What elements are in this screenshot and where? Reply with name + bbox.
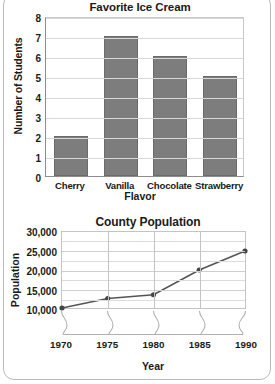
line-chart-title: County Population <box>50 215 246 229</box>
bar-chart-y-tick-label: 4 <box>35 93 41 104</box>
bar-chart-category-label: Cherry <box>55 180 85 191</box>
bar-chart-gridline <box>46 138 243 139</box>
bar-chart-y-tick-label: 5 <box>35 73 41 84</box>
line-chart-x-tick-label: 1980 <box>143 339 165 350</box>
bar-chart-y-tick-label: 2 <box>35 133 41 144</box>
line-chart-y-tick-label: 30,000 <box>26 227 57 238</box>
bar-chart-gridline <box>46 58 243 59</box>
bar-chart-gridline <box>46 38 243 39</box>
bar-chart-y-tick-label: 3 <box>35 113 41 124</box>
line-chart-x-tick-label: 1975 <box>96 339 118 350</box>
bar-cherry <box>54 136 88 176</box>
bar-strawberry <box>203 76 237 176</box>
bar-chart-figure: Favorite Ice Cream Number of Students Fl… <box>0 0 252 205</box>
bar-chart-gridline <box>46 18 243 19</box>
line-chart-x-tick-label: 1970 <box>50 339 72 350</box>
bar-chart-y-tick-label: 6 <box>35 53 41 64</box>
line-chart-figure: County Population Population Year 10,000… <box>0 206 258 384</box>
bar-chart-category-label: Vanilla <box>105 180 134 191</box>
worksheet-page: Favorite Ice Cream Number of Students Fl… <box>0 0 275 384</box>
bar-chart-y-axis-label: Number of Students <box>12 21 24 151</box>
line-chart-y-tick-label: 20,000 <box>26 266 57 277</box>
bar-chart-gridline <box>46 118 243 119</box>
line-chart-y-tick-label: 25,000 <box>26 246 57 257</box>
bar-chart-plot-area: 012345678 <box>45 17 244 177</box>
bar-chart-gridline <box>46 158 243 159</box>
bar-chart-gridline <box>46 78 243 79</box>
bar-chart-x-axis-label: Flavor <box>36 190 244 202</box>
bar-chart-gridline <box>46 98 243 99</box>
line-chart-vertical-gridline <box>200 232 201 308</box>
line-chart-y-tick-label: 15,000 <box>26 285 57 296</box>
bar-chart-y-tick-label: 7 <box>35 33 41 44</box>
line-chart-vertical-gridline <box>154 232 155 308</box>
line-chart-x-tick-label: 1985 <box>189 339 211 350</box>
line-chart-y-axis-label: Population <box>9 232 21 328</box>
bar-chart-category-label: Chocolate <box>147 180 192 191</box>
axis-break-squiggles <box>61 309 246 335</box>
axis-break-icon <box>61 309 246 335</box>
bar-chart-y-tick-label: 0 <box>35 173 41 184</box>
line-chart-y-tick-label: 10,000 <box>26 305 57 316</box>
bar-chart-y-tick-label: 8 <box>35 13 41 24</box>
line-chart-x-axis-label: Year <box>60 360 246 372</box>
bar-chart-title: Favorite Ice Cream <box>36 1 244 13</box>
line-chart-plot-area: 10,00015,00020,00025,00030,000 <box>61 231 246 309</box>
line-chart-vertical-gridline <box>108 232 109 308</box>
bar-chart-category-label: Strawberry <box>195 180 243 191</box>
line-chart-x-tick-label: 1990 <box>235 339 257 350</box>
bar-chart-y-tick-label: 1 <box>35 153 41 164</box>
